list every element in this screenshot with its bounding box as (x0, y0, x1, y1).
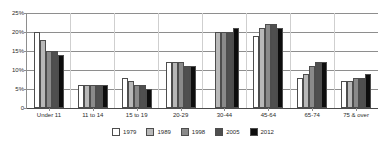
bar[interactable] (365, 74, 371, 108)
bar-group (159, 13, 203, 108)
y-tick-label-0: 0 (0, 105, 24, 111)
gridline-0 (27, 108, 378, 109)
legend-swatch-icon (215, 128, 223, 136)
x-tick-mark (312, 108, 313, 111)
legend-item-1989[interactable]: 1989 (146, 128, 170, 136)
bar[interactable] (277, 28, 283, 108)
legend-label: 2005 (226, 128, 239, 136)
x-axis-label: 11 to 14 (71, 112, 115, 119)
x-axis-label: 45-64 (246, 112, 290, 119)
legend-swatch-icon (146, 128, 154, 136)
legend-label: 2012 (261, 128, 274, 136)
y-tick-label-15: 15% (0, 48, 24, 54)
legend-label: 1989 (157, 128, 170, 136)
legend: 1979 1989 1998 2005 2012 (0, 128, 386, 136)
x-tick-mark (224, 108, 225, 111)
bar[interactable] (58, 55, 64, 108)
x-axis-label: 20-29 (159, 112, 203, 119)
bar-group (246, 13, 290, 108)
plot-area (27, 13, 378, 108)
y-tick-label-20: 20% (0, 29, 24, 35)
legend-label: 1979 (123, 128, 136, 136)
y-tick-label-25: 25% (0, 10, 24, 16)
legend-item-2005[interactable]: 2005 (215, 128, 239, 136)
x-tick-mark (356, 108, 357, 111)
bar[interactable] (146, 89, 152, 108)
x-axis-label: 30-44 (203, 112, 247, 119)
x-axis-label: 65-74 (290, 112, 334, 119)
bar[interactable] (190, 66, 196, 108)
bar-group (334, 13, 378, 108)
legend-swatch-icon (112, 128, 120, 136)
bar-chart: 25% 20% 15% 10% 5% 0 Under 1111 to 1415 … (0, 0, 386, 146)
legend-item-1979[interactable]: 1979 (112, 128, 136, 136)
bar[interactable] (321, 62, 327, 108)
bar-group (203, 13, 247, 108)
bar[interactable] (102, 85, 108, 108)
legend-item-2012[interactable]: 2012 (250, 128, 274, 136)
bar-group (27, 13, 71, 108)
bar-group (71, 13, 115, 108)
legend-swatch-icon (181, 128, 189, 136)
bar-group (115, 13, 159, 108)
y-tick-label-5: 5% (0, 86, 24, 92)
x-axis-label: 15 to 19 (115, 112, 159, 119)
x-tick-mark (137, 108, 138, 111)
legend-item-1998[interactable]: 1998 (181, 128, 205, 136)
x-axis-label: Under 11 (27, 112, 71, 119)
x-tick-mark (268, 108, 269, 111)
y-tick-label-10: 10% (0, 67, 24, 73)
x-tick-mark (49, 108, 50, 111)
x-tick-mark (93, 108, 94, 111)
x-tick-mark (181, 108, 182, 111)
bar[interactable] (233, 28, 239, 108)
x-axis-label: 75 & over (334, 112, 378, 119)
legend-swatch-icon (250, 128, 258, 136)
bar-group (290, 13, 334, 108)
legend-label: 1998 (192, 128, 205, 136)
